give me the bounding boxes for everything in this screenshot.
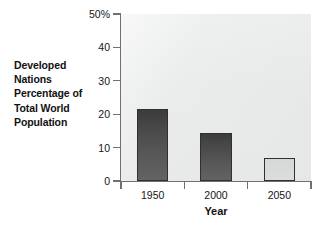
y-tick-label-0: 0 [104, 175, 110, 187]
x-tick-start [120, 182, 121, 189]
y-axis-title-line-1: Developed [14, 58, 106, 72]
y-axis-title: Developed Nations Percentage of Total Wo… [14, 58, 106, 129]
y-axis-title-line-5: Population [14, 115, 106, 129]
chart-figure: Developed Nations Percentage of Total Wo… [0, 0, 330, 231]
bar-2050 [264, 158, 296, 181]
y-tick-label-50: 50% [89, 8, 110, 20]
y-tick-label-10: 10 [98, 142, 110, 154]
y-axis-title-line-3: Percentage of [14, 86, 106, 100]
y-tick-30: 30 [113, 80, 120, 81]
y-tick-40: 40 [113, 47, 120, 48]
bar-1950 [137, 109, 169, 181]
x-axis-title: Year [121, 205, 311, 217]
y-tick-50: 50% [113, 13, 120, 14]
x-category-label-2050: 2050 [248, 189, 311, 201]
y-tick-10: 10 [113, 147, 120, 148]
y-tick-20: 20 [113, 114, 120, 115]
x-tick-1 [184, 182, 185, 189]
x-tick-2 [247, 182, 248, 189]
x-axis-line [120, 181, 312, 182]
x-category-label-1950: 1950 [121, 189, 184, 201]
y-tick-label-40: 40 [98, 41, 110, 53]
y-tick-label-30: 30 [98, 75, 110, 87]
x-tick-end [310, 182, 311, 189]
x-category-label-2000: 2000 [184, 189, 247, 201]
y-axis-title-line-2: Nations [14, 72, 106, 86]
y-tick-0: 0 [113, 180, 120, 181]
bar-2000 [200, 133, 232, 181]
y-axis-title-line-4: Total World [14, 101, 106, 115]
y-tick-label-20: 20 [98, 108, 110, 120]
y-axis-line [120, 13, 121, 182]
